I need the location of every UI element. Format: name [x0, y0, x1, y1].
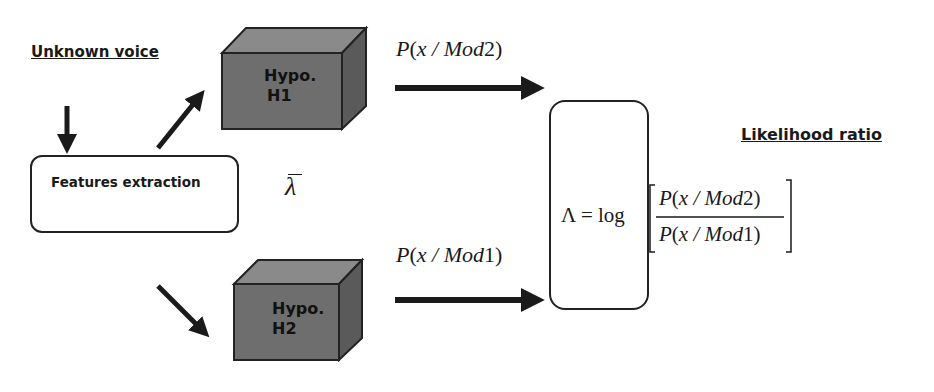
hypo1-label: Hypo. H1 — [264, 66, 316, 106]
slash: / — [427, 242, 444, 267]
hypo2-id: H2 — [272, 319, 324, 339]
idx: 1 — [484, 242, 495, 267]
hypo2-label: Hypo. H2 — [272, 299, 324, 339]
p-symbol: P — [396, 36, 409, 61]
paren: ( — [409, 242, 416, 267]
idx: 1 — [743, 222, 754, 246]
p-symbol: P — [659, 186, 672, 210]
paren: ( — [672, 186, 679, 210]
p-symbol: P — [659, 222, 672, 246]
formula-numerator: P(x / Mod2) — [659, 186, 761, 211]
paren: ) — [495, 36, 502, 61]
mod: Mod — [705, 186, 744, 210]
mod: Mod — [444, 242, 484, 267]
features-extraction-box: Features extraction — [30, 155, 239, 233]
edge-label-mod1: P(x / Mod1) — [396, 242, 502, 268]
features-extraction-label: Features extraction — [51, 174, 201, 190]
x-var: x — [679, 186, 688, 210]
slash: / — [427, 36, 444, 61]
paren: ( — [672, 222, 679, 246]
formula-denominator: P(x / Mod1) — [659, 222, 761, 247]
arrow-features-to-h2 — [158, 286, 203, 331]
mod: Mod — [444, 36, 484, 61]
paren: ) — [754, 186, 761, 210]
slash: / — [688, 222, 704, 246]
slash: / — [688, 186, 704, 210]
lambda-glyph: λ — [285, 172, 296, 201]
idx: 2 — [484, 36, 495, 61]
mod: Mod — [705, 222, 744, 246]
edge-label-mod2: P(x / Mod2) — [396, 36, 502, 62]
hypo1-id: H1 — [267, 86, 316, 106]
p-symbol: P — [396, 242, 409, 267]
paren: ) — [754, 222, 761, 246]
unknown-voice-label: Unknown voice — [31, 43, 159, 61]
overline — [288, 174, 302, 175]
hypo2-title: Hypo. — [272, 299, 324, 319]
hypo1-title: Hypo. — [264, 66, 316, 86]
lambda-bar-symbol: λ — [285, 172, 296, 202]
likelihood-ratio-label: Likelihood ratio — [741, 125, 882, 144]
formula-left-bracket — [650, 185, 655, 252]
x-var: x — [417, 242, 427, 267]
paren: ( — [409, 36, 416, 61]
formula-right-bracket — [786, 180, 791, 252]
x-var: x — [417, 36, 427, 61]
formula-lhs: Λ = log — [561, 203, 625, 228]
arrow-features-to-h1 — [158, 97, 199, 148]
x-var: x — [679, 222, 688, 246]
paren: ) — [495, 242, 502, 267]
idx: 2 — [743, 186, 754, 210]
